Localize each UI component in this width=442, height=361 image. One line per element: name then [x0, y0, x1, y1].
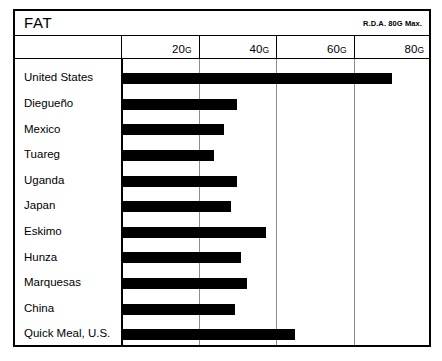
category-label-diegue-o: Diegueño	[24, 97, 73, 109]
bar-row	[15, 168, 429, 194]
bar-row	[15, 220, 429, 246]
axis-tick-label-60: 60G	[327, 43, 346, 55]
axis-tick-label-40: 40G	[250, 43, 269, 55]
category-label-eskimo: Eskimo	[24, 225, 62, 237]
category-label-united-states: United States	[24, 71, 93, 83]
bar-row	[15, 117, 429, 143]
rda-annotation: R.D.A. 80G Max.	[363, 19, 422, 28]
bar-row	[15, 194, 429, 220]
category-label-japan: Japan	[24, 199, 55, 211]
value-axis-header: 20G40G60G80G	[15, 36, 429, 59]
category-label-tuareg: Tuareg	[24, 148, 60, 160]
chart-title-band: FAT R.D.A. 80G Max.	[15, 11, 429, 36]
chart-frame: FAT R.D.A. 80G Max. 20G40G60G80G United …	[13, 9, 431, 347]
axis-tick-cell-60: 60G	[276, 36, 354, 58]
category-label-hunza: Hunza	[24, 251, 57, 263]
axis-tick-cell-40: 40G	[199, 36, 277, 58]
bar-row	[15, 92, 429, 118]
plot-area: United StatesDiegueñoMexicoTuaregUgandaJ…	[15, 59, 429, 345]
bar-uganda	[121, 176, 237, 187]
bar-tuareg	[121, 150, 214, 161]
category-label-mexico: Mexico	[24, 123, 60, 135]
bar-japan	[121, 201, 231, 212]
bar-row	[15, 143, 429, 169]
category-label-uganda: Uganda	[24, 174, 64, 186]
bar-eskimo	[121, 227, 266, 238]
bar-china	[121, 304, 235, 315]
bar-hunza	[121, 252, 241, 263]
bar-united-states	[121, 73, 392, 84]
bar-diegue-o	[121, 99, 237, 110]
bar-mexico	[121, 124, 224, 135]
axis-tick-label-20: 20G	[172, 43, 191, 55]
category-label-marquesas: Marquesas	[24, 276, 81, 288]
bar-row	[15, 296, 429, 322]
category-label-china: China	[24, 302, 54, 314]
axis-tick-label-80: 80G	[405, 43, 424, 55]
bar-row	[15, 245, 429, 271]
bar-quick-meal-u-s	[121, 329, 295, 340]
bar-marquesas	[121, 278, 247, 289]
category-label-quick-meal-u-s: Quick Meal, U.S.	[24, 327, 110, 339]
axis-tick-cell-20: 20G	[121, 36, 199, 58]
page-title: FAT	[24, 14, 52, 31]
axis-tick-cell-80: 80G	[354, 36, 432, 58]
